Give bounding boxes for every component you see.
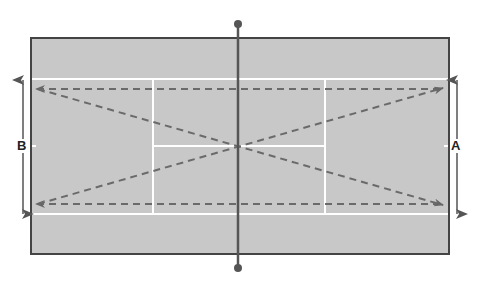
label-A: A	[450, 139, 461, 153]
net-post-top	[234, 20, 242, 28]
tennis-court-diagram	[0, 0, 477, 288]
label-B: B	[16, 139, 27, 153]
net-post-bottom	[234, 264, 242, 272]
